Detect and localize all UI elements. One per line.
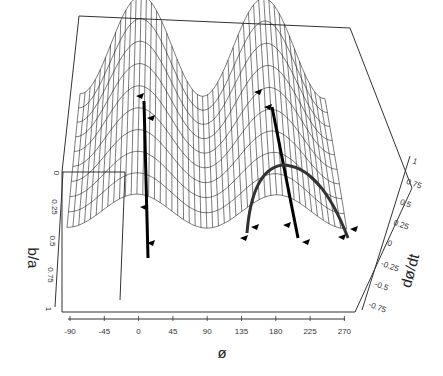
mesh-line-phi xyxy=(73,92,85,227)
mesh-line-phi xyxy=(177,59,178,216)
mesh-line-phi xyxy=(102,45,111,211)
mesh-line-phi xyxy=(182,71,183,220)
y-tick-label: 1 xyxy=(44,307,53,312)
floor-edge xyxy=(62,172,125,300)
x-tick-label: 270 xyxy=(338,327,352,336)
mesh-line-phi xyxy=(223,72,230,220)
x-tick-label: 180 xyxy=(269,327,283,336)
surface-plot: -90-4504590135180225270 00.250.50.751 10… xyxy=(0,0,443,376)
arrowhead-icon xyxy=(283,222,291,228)
surface-mesh xyxy=(67,0,347,229)
mesh-line-phi xyxy=(259,0,271,195)
mesh-line-phi xyxy=(243,23,253,203)
mesh-line-phi xyxy=(208,95,213,228)
z-tick-label: -0.75 xyxy=(367,300,388,315)
z-tick-label: 0.5 xyxy=(399,197,413,209)
trajectory-phi-180 xyxy=(272,107,298,238)
mesh-line-phi xyxy=(149,3,152,197)
mesh-line-phi xyxy=(125,2,131,196)
mesh-line-phi xyxy=(166,33,167,207)
y-tick-label: 0 xyxy=(52,171,61,176)
arrowhead-icon xyxy=(302,239,310,245)
x-tick-label: -90 xyxy=(64,327,76,336)
mesh-line-phi xyxy=(114,20,121,202)
x-tick-label: -45 xyxy=(99,327,111,336)
y-tick-label: 0.75 xyxy=(46,267,55,283)
mesh-line-phi xyxy=(131,0,136,195)
mesh-line-phi xyxy=(197,95,201,228)
mesh-line-phi xyxy=(254,5,266,197)
mesh-line-phi xyxy=(218,82,225,223)
y-axis-title: b/a xyxy=(25,248,42,270)
mesh-line-phi xyxy=(203,96,207,228)
arrowhead-icon xyxy=(350,226,358,232)
z-tick-label: 1 xyxy=(411,156,419,166)
mesh-line-phi xyxy=(289,36,306,208)
mesh-line-phi xyxy=(90,69,100,219)
z-axis: 10.750.50.250-0.25-0.5-0.75 xyxy=(362,156,423,315)
z-tick-label: -0.25 xyxy=(380,259,401,274)
arrowhead-icon xyxy=(240,235,248,241)
x-tick-label: 90 xyxy=(203,327,212,336)
mesh-line-phi xyxy=(238,35,247,207)
mesh-line-phi xyxy=(154,11,156,199)
x-axis-title: ø xyxy=(217,344,226,361)
mesh-line-phi xyxy=(228,60,236,216)
mesh-line-phi xyxy=(160,21,162,202)
mesh-line-phi xyxy=(120,10,126,199)
arrowhead-icon xyxy=(136,93,144,99)
arrowhead-icon xyxy=(147,115,155,121)
z-tick-label: 0.75 xyxy=(405,177,423,191)
x-tick-label: 45 xyxy=(168,327,177,336)
x-tick-label: 225 xyxy=(303,327,317,336)
mesh-line-phi xyxy=(67,94,80,228)
z-tick-label: 0 xyxy=(386,238,394,248)
arrowhead-icon xyxy=(251,224,259,230)
x-tick-label: 135 xyxy=(235,327,249,336)
mesh-line-phi xyxy=(192,89,195,225)
mesh-line-phi xyxy=(187,81,189,223)
trajectories xyxy=(136,89,358,258)
mesh-line-phi xyxy=(248,13,259,200)
mesh-line-phi xyxy=(213,90,219,226)
trajectory-phi-0 xyxy=(144,101,148,258)
x-axis: -90-4504590135180225270 xyxy=(64,316,351,336)
y-tick-label: 0.5 xyxy=(48,235,57,247)
arrowhead-icon xyxy=(254,89,262,95)
x-tick-label: 0 xyxy=(136,327,141,336)
z-tick-label: 0.25 xyxy=(392,218,410,232)
z-tick-label: -0.5 xyxy=(374,279,391,292)
y-axis: 00.250.50.751 xyxy=(44,171,63,312)
arrowhead-icon xyxy=(338,234,346,240)
y-tick-label: 0.25 xyxy=(50,199,59,215)
z-axis-title: dø/dt xyxy=(397,251,422,289)
